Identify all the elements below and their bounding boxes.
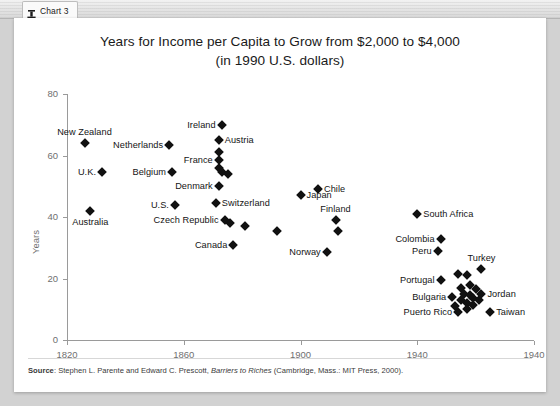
chart-icon <box>27 6 36 16</box>
data-point <box>228 240 238 250</box>
data-point <box>164 140 174 150</box>
source-text-2: (Cambridge, Mass.: MIT Press, 2000). <box>272 366 403 375</box>
data-point-label: Canada <box>195 240 227 250</box>
data-point-label: Turkey <box>467 253 495 263</box>
data-point <box>333 226 343 236</box>
data-point-label: Belgium <box>133 167 167 177</box>
data-point <box>214 181 224 191</box>
data-point-label: Peru <box>412 246 432 256</box>
source-text-1: : Stephen L. Parente and Edward C. Presc… <box>54 366 211 375</box>
y-tick-label: 80 <box>14 88 58 99</box>
data-point-label: Australia <box>72 217 108 227</box>
data-point <box>477 264 487 274</box>
window-chrome: Chart 3 <box>0 0 560 19</box>
data-point-label: Denmark <box>175 181 213 191</box>
y-tick-label: 40 <box>14 211 58 222</box>
data-point-label: U.K. <box>78 167 96 177</box>
data-point <box>331 215 341 225</box>
data-point <box>85 206 95 216</box>
x-tick <box>417 341 418 345</box>
y-tick <box>63 94 67 95</box>
data-point-label: Ireland <box>187 120 215 130</box>
y-tick <box>63 217 67 218</box>
data-point-label: Portugal <box>400 275 435 285</box>
x-tick <box>184 341 185 345</box>
x-tick <box>67 341 68 345</box>
data-point-label: Czech Republic <box>154 215 219 225</box>
data-point-label: Puerto Rico <box>404 307 453 317</box>
data-point-label: Norway <box>289 247 320 257</box>
y-tick-label: 20 <box>14 273 58 284</box>
chrome-texture <box>0 0 560 18</box>
y-axis-label: Years <box>30 230 41 254</box>
data-point-label: Jordan <box>487 289 515 299</box>
chart-sheet: Years for Income per Capita to Grow from… <box>14 18 546 392</box>
data-point <box>412 209 422 219</box>
data-point <box>436 234 446 244</box>
data-point <box>436 275 446 285</box>
x-tick <box>534 341 535 345</box>
data-point <box>97 167 107 177</box>
data-point-label: France <box>184 155 213 165</box>
tab-label: Chart 3 <box>40 6 69 16</box>
y-tick-label: 60 <box>14 150 58 161</box>
y-tick <box>63 279 67 280</box>
data-point <box>462 270 472 280</box>
data-point <box>485 307 495 317</box>
data-point-label: Switzerland <box>222 198 270 208</box>
data-point-label: Netherlands <box>113 140 163 150</box>
data-point <box>214 155 224 165</box>
data-point <box>433 246 443 256</box>
data-point <box>322 247 332 257</box>
footer-divider <box>28 358 532 359</box>
data-point-label: Chile <box>324 184 345 194</box>
data-point-label: U.S. <box>151 200 169 210</box>
data-point <box>214 135 224 145</box>
data-point <box>217 120 227 130</box>
tab-chart-3[interactable]: Chart 3 <box>22 1 78 19</box>
data-point-label: Austria <box>225 135 254 145</box>
data-point-label: New Zealand <box>57 127 112 137</box>
data-point-label: Finland <box>320 204 350 214</box>
data-point-label: South Africa <box>423 209 473 219</box>
source-note: Source: Stephen L. Parente and Edward C.… <box>28 365 534 376</box>
data-point <box>240 221 250 231</box>
data-point-label: Bulgaria <box>412 292 446 302</box>
data-point <box>167 167 177 177</box>
data-point <box>80 138 90 148</box>
scatter-plot: 020406080Years18201860190019401940New Ze… <box>14 18 546 392</box>
data-point-label: Colombia <box>395 234 434 244</box>
source-title: Barriers to Riches <box>211 366 272 375</box>
data-point <box>170 200 180 210</box>
y-tick-label: 0 <box>14 334 58 345</box>
data-point-label: Taiwan <box>496 307 525 317</box>
source-prefix: Source <box>28 366 54 375</box>
y-tick <box>63 156 67 157</box>
data-point <box>296 191 306 201</box>
data-point <box>272 226 282 236</box>
chart-window: Chart 3 Years for Income per Capita to G… <box>0 0 560 406</box>
x-tick <box>301 341 302 345</box>
data-point <box>211 198 221 208</box>
